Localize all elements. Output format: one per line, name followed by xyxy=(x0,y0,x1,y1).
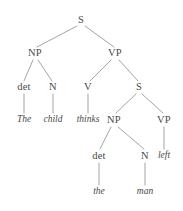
tree-edge-vp_1-to-v_1 xyxy=(90,60,111,81)
tree-node-word_left: left xyxy=(158,151,170,161)
tree-edge-vp_1-to-s_embedded xyxy=(119,60,138,81)
tree-node-word_man: man xyxy=(137,187,153,197)
tree-edge-s_embedded-to-vp_2 xyxy=(142,94,163,113)
tree-node-vp_1: VP xyxy=(108,48,122,59)
tree-node-vp_2: VP xyxy=(157,115,171,126)
tree-edge-s_root-to-np_1 xyxy=(37,26,77,47)
tree-edge-np_2-to-det_2 xyxy=(100,127,111,149)
tree-node-np_2: NP xyxy=(107,115,121,126)
tree-node-word_the_2: the xyxy=(93,187,105,197)
tree-edge-s_root-to-vp_1 xyxy=(85,26,114,47)
tree-node-v_1: V xyxy=(84,82,92,93)
tree-edge-np_1-to-det_1 xyxy=(24,60,33,81)
tree-node-n_2: N xyxy=(141,151,149,162)
tree-edges-layer xyxy=(0,0,183,211)
tree-edge-s_embedded-to-np_2 xyxy=(116,94,136,113)
tree-node-s_embedded: S xyxy=(136,82,142,93)
tree-node-word_thinks: thinks xyxy=(77,115,100,125)
tree-node-s_root: S xyxy=(78,15,84,26)
tree-edge-np_2-to-n_2 xyxy=(118,127,144,149)
tree-node-det_2: det xyxy=(92,151,105,162)
tree-node-det_1: det xyxy=(17,82,30,93)
tree-node-word_child: child xyxy=(44,115,63,125)
tree-node-word_the_1: The xyxy=(17,115,31,125)
syntax-tree-diagram: SNPVPdetNVSThechildthinksNPVPdetNleftthe… xyxy=(0,0,183,211)
tree-node-n_1: N xyxy=(49,82,57,93)
tree-edge-np_1-to-n_1 xyxy=(38,60,52,81)
tree-node-np_1: NP xyxy=(28,48,42,59)
